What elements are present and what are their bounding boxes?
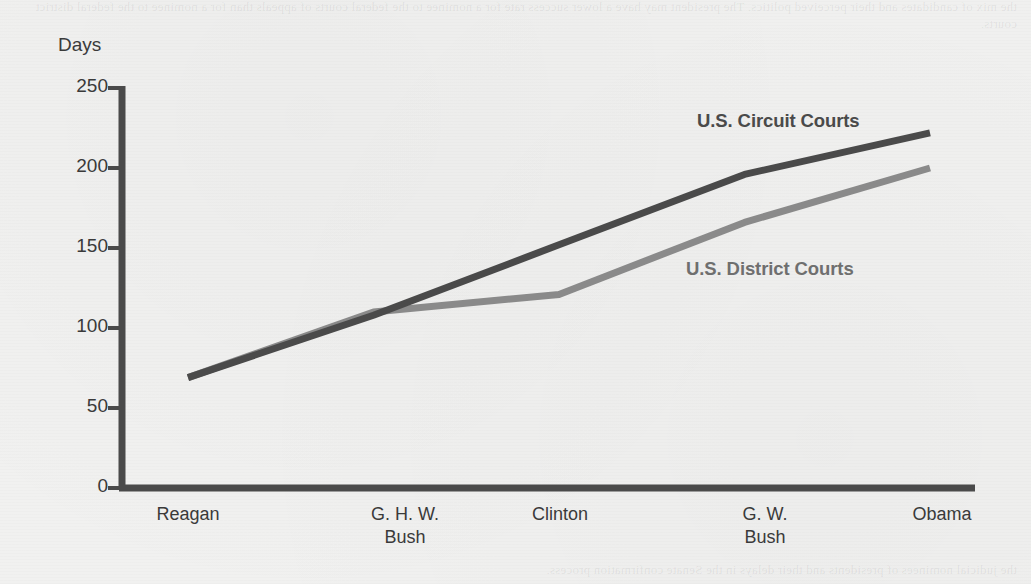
- line-chart: Days 250 200 150 100 50 0 U.S. Circuit C…: [0, 0, 1031, 584]
- series-label-us-circuit-courts: U.S. Circuit Courts: [697, 110, 860, 132]
- x-tick-label-obama-line1: Obama: [877, 503, 1007, 526]
- x-tick-label-ghw-bush-line1: G. H. W.: [340, 503, 470, 526]
- x-tick-label-gw-bush-line2: Bush: [700, 526, 830, 549]
- x-tick-label-clinton-line1: Clinton: [495, 503, 625, 526]
- x-tick-label-ghw-bush: G. H. W. Bush: [340, 503, 470, 549]
- x-tick-label-reagan: Reagan: [128, 503, 248, 526]
- x-tick-label-ghw-bush-line2: Bush: [340, 526, 470, 549]
- x-tick-label-clinton: Clinton: [495, 503, 625, 526]
- x-tick-label-obama: Obama: [877, 503, 1007, 526]
- plot-area: [0, 0, 1031, 584]
- series-line-us-circuit-courts: [188, 133, 930, 378]
- x-tick-label-gw-bush-line1: G. W.: [700, 503, 830, 526]
- series-label-us-district-courts: U.S. District Courts: [686, 258, 854, 280]
- x-tick-label-gw-bush: G. W. Bush: [700, 503, 830, 549]
- x-tick-label-reagan-line1: Reagan: [128, 503, 248, 526]
